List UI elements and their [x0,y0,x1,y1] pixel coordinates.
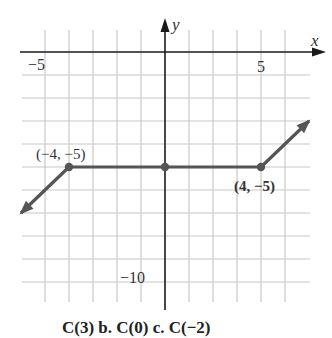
y-axis-label: y [170,15,180,34]
x-tick-label: −5 [28,56,45,73]
point-label: (4, −5) [234,178,275,195]
exercise-caption: C(3) b. C(0) c. C(−2) [62,318,210,338]
axes [20,18,326,310]
labels: −55−10xy(−4, −5)(4, −5) [28,15,319,286]
x-tick-label: 5 [257,58,265,75]
data-point [65,163,73,171]
data-point [257,163,265,171]
x-axis-label: x [310,31,319,50]
point-label: (−4, −5) [36,146,85,163]
y-tick-label: −10 [120,269,145,286]
y-axis-arrow-icon [161,18,170,32]
data-point [161,163,169,171]
